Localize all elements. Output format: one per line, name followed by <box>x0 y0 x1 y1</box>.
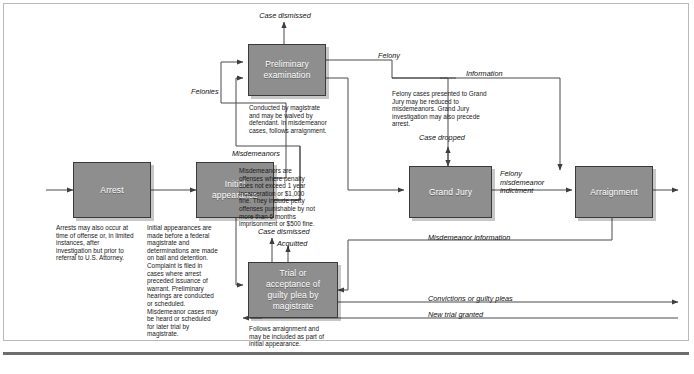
flowchart-figure: Arrest Initial appearance Preliminary ex… <box>0 0 694 374</box>
edge-label-misdemeanors: Misdemeanors <box>232 150 280 159</box>
edge-label-information: Information <box>466 70 503 79</box>
node-arraignment-label: Arraignment <box>587 187 640 198</box>
caption-arrest: Arrests may also occur at time of offens… <box>56 224 134 262</box>
node-trial: Trial or acceptance of guilty plea by ma… <box>248 262 338 318</box>
node-arraignment: Arraignment <box>575 166 653 218</box>
caption-grand-jury: Felony cases presented to Grand Jury may… <box>392 90 487 128</box>
edge-label-case-dismissed-trial: Case dismissed <box>258 228 310 237</box>
caption-preliminary-examination: Conducted by magistrate and may be waive… <box>249 104 331 134</box>
edge-label-acquitted: Acquitted <box>277 240 307 249</box>
edge-label-felony: Felony <box>378 52 400 61</box>
node-arrest: Arrest <box>73 162 151 218</box>
node-grand-jury: Grand Jury <box>409 166 492 218</box>
node-preliminary-examination: Preliminary examination <box>248 44 326 96</box>
edge-label-felonies: Felonies <box>191 88 219 97</box>
edge-label-case-dismissed-top: Case dismissed <box>244 12 326 21</box>
caption-initial-appearance: Initial appearances are made before a fe… <box>147 224 219 338</box>
node-grand-jury-label: Grand Jury <box>426 187 475 198</box>
caption-trial: Follows arraignment and may be included … <box>249 325 331 348</box>
node-trial-label: Trial or acceptance of guilty plea by ma… <box>263 268 323 312</box>
edge-label-felony-misdemeanor-indictment: Felony misdemeanor indictment <box>500 170 562 196</box>
edge-label-case-dropped: Case dropped <box>419 134 465 143</box>
edge-label-convictions-or-guilty-pleas: Convictions or guilty pleas <box>428 295 513 304</box>
caption-misdemeanors: Misdemeanors are offenses where penalty … <box>239 167 317 228</box>
edge-label-new-trial-granted: New trial granted <box>428 311 483 320</box>
node-preliminary-examination-label: Preliminary examination <box>261 59 314 81</box>
figure-bottom-rule <box>3 352 689 355</box>
node-arrest-label: Arrest <box>97 185 126 196</box>
edge-label-misdemeanor-information: Misdemeanor information <box>428 234 510 243</box>
